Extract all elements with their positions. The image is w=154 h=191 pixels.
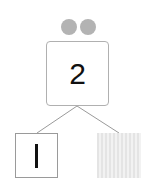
number-bond-diagram: 2 (0, 0, 154, 191)
whole-box: 2 (46, 41, 109, 106)
counter-dot-2 (80, 19, 96, 35)
counter-dot-1 (61, 19, 77, 35)
part-box-right-blank[interactable] (97, 133, 141, 178)
connector-right (77, 106, 119, 133)
connector-left (37, 106, 77, 133)
whole-value: 2 (69, 57, 86, 91)
part-box-left[interactable] (15, 133, 58, 178)
one-bar-icon (35, 144, 38, 168)
